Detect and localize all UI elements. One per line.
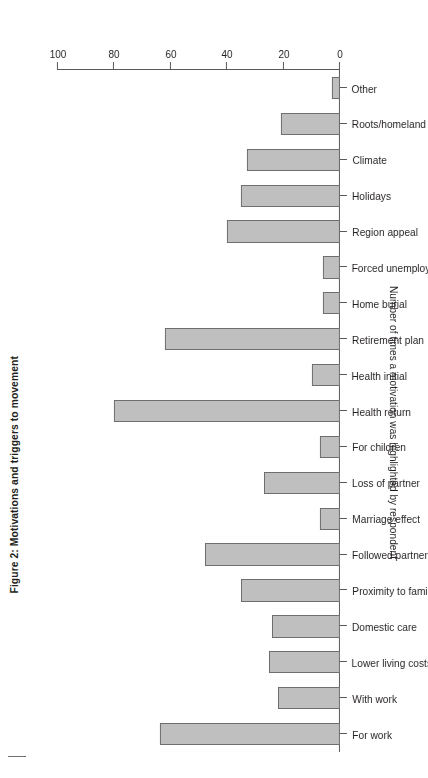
bar-row: Climate <box>58 142 340 178</box>
bar-row: Holidays <box>58 178 340 214</box>
category-label: Proximity to family <box>352 586 428 597</box>
category-label: Health return <box>352 407 411 418</box>
bar-row: For children <box>58 429 340 465</box>
bar-row: Health initial <box>58 357 340 393</box>
bar[interactable] <box>241 185 340 207</box>
value-tick <box>226 62 227 70</box>
value-tick <box>113 62 114 70</box>
value-tick <box>283 62 284 70</box>
category-tick <box>340 231 347 232</box>
bar-row: Home burial <box>58 285 340 321</box>
bar-row: Loss of partner <box>58 465 340 501</box>
bar[interactable] <box>264 472 340 494</box>
value-tick-label: 80 <box>109 49 120 60</box>
value-tick-label: 100 <box>50 49 67 60</box>
bar[interactable] <box>323 292 340 314</box>
bar-row: Lower living costs <box>58 644 340 680</box>
value-tick <box>170 62 171 70</box>
bar-row: Followed partners <box>58 537 340 573</box>
category-tick <box>340 446 347 447</box>
chart-container: Number of times a motivation was highlig… <box>30 8 422 770</box>
category-tick <box>340 123 347 124</box>
category-tick <box>340 625 347 626</box>
bar[interactable] <box>312 364 340 386</box>
category-label: Climate <box>352 155 387 166</box>
value-tick-label: 20 <box>278 49 289 60</box>
category-tick <box>340 338 347 339</box>
value-tick <box>57 62 58 70</box>
plot-area: Number of times a motivation was highlig… <box>30 8 422 770</box>
bar-row: Other <box>58 70 340 106</box>
category-label: Domestic care <box>352 622 417 633</box>
category-tick <box>340 590 347 591</box>
bar-row: Marriage effect <box>58 501 340 537</box>
value-tick <box>339 62 340 70</box>
category-tick <box>340 661 347 662</box>
bar-group: For workWith workLower living costsDomes… <box>58 70 340 752</box>
bar-row: Domestic care <box>58 608 340 644</box>
category-tick <box>340 195 347 196</box>
bar-row: Forced unemployment <box>58 250 340 286</box>
category-label: Home burial <box>352 299 407 310</box>
bar-row: For work <box>58 716 340 752</box>
bar-row: Retirement plan <box>58 321 340 357</box>
category-label: For work <box>352 730 392 741</box>
category-tick <box>340 518 347 519</box>
category-tick <box>340 87 347 88</box>
bar[interactable] <box>165 328 340 350</box>
category-label: Holidays <box>352 191 391 202</box>
bar-row: Proximity to family <box>58 573 340 609</box>
bar[interactable] <box>332 77 340 99</box>
category-label: With work <box>352 694 397 705</box>
bar[interactable] <box>323 256 340 278</box>
bar[interactable] <box>205 543 340 565</box>
category-label: Marriage effect <box>352 514 420 525</box>
bar[interactable] <box>320 508 340 530</box>
category-tick <box>340 482 347 483</box>
value-tick-label: 40 <box>222 49 233 60</box>
bar[interactable] <box>227 220 340 242</box>
category-label: Loss of partner <box>352 478 420 489</box>
bar[interactable] <box>114 400 340 422</box>
category-label: Roots/homeland <box>352 119 426 130</box>
bar[interactable] <box>281 113 340 135</box>
category-label: For children <box>352 442 406 453</box>
category-label: Health initial <box>352 371 408 382</box>
bar[interactable] <box>278 687 340 709</box>
caption-rule <box>8 756 26 757</box>
category-tick <box>340 410 347 411</box>
figure-caption: Figure 2: Motivations and triggers to mo… <box>9 200 20 600</box>
bar[interactable] <box>241 579 340 601</box>
bar-row: Roots/homeland <box>58 106 340 142</box>
category-label: Region appeal <box>352 227 418 238</box>
bar[interactable] <box>272 615 340 637</box>
category-label: Retirement plan <box>352 335 424 346</box>
bar[interactable] <box>320 436 340 458</box>
value-tick-label: 60 <box>165 49 176 60</box>
category-tick <box>340 159 347 160</box>
category-label: Forced unemployment <box>352 263 428 274</box>
category-tick <box>340 302 347 303</box>
bar-row: Health return <box>58 393 340 429</box>
category-label: Followed partners <box>352 550 428 561</box>
bar-row: Region appeal <box>58 214 340 250</box>
category-label: Other <box>352 84 377 95</box>
category-tick <box>340 266 347 267</box>
bar[interactable] <box>270 651 341 673</box>
category-tick <box>340 374 347 375</box>
category-label: Lower living costs <box>352 658 428 669</box>
value-tick-label: 0 <box>337 49 343 60</box>
category-tick <box>340 697 347 698</box>
bar[interactable] <box>160 723 340 745</box>
category-tick <box>340 733 347 734</box>
bar-row: With work <box>58 680 340 716</box>
bar[interactable] <box>247 149 340 171</box>
category-tick <box>340 554 347 555</box>
value-axis-title: Number of times a motivation was highlig… <box>389 273 400 573</box>
value-axis: 020406080100 <box>58 30 340 70</box>
